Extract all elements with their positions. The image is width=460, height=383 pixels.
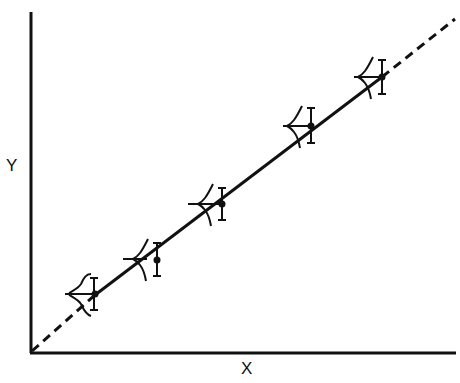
y-axis-label: Y [6,157,17,174]
data-point [283,106,315,148]
data-point [123,239,161,281]
fit-line-extrapolation-lower [32,295,95,351]
fit-line-extrapolation-upper [382,19,455,77]
regression-diagram [0,0,460,383]
x-axis-label: X [241,360,252,377]
data-point [354,57,386,99]
data-point [65,274,99,316]
